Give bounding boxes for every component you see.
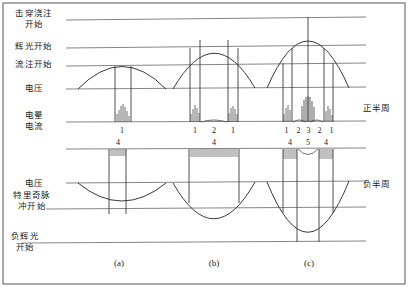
label-voltage-upper: 电压 bbox=[6, 83, 62, 93]
region-number-c-1-left: 1 bbox=[282, 126, 291, 135]
label-trichel-pulse-onset-line1: 特里奇脉 bbox=[2, 190, 62, 201]
region-number-c-3: 3 bbox=[304, 126, 313, 135]
label-voltage-upper-line1: 电压 bbox=[6, 83, 62, 93]
region-number-c-1-right: 1 bbox=[327, 126, 336, 135]
region-number-b-2: 2 bbox=[209, 126, 219, 135]
caption-b: (b) bbox=[203, 258, 225, 268]
label-voltage-lower: 电压 bbox=[6, 178, 62, 188]
region-number-c-4-left: 4 bbox=[285, 138, 295, 147]
label-glow-onset: 辉光开始 bbox=[6, 41, 62, 51]
label-voltage-lower-line1: 电压 bbox=[6, 178, 62, 188]
figure-root: 击穿浇注 开始 辉光开始 流注开始 电压 电晕 电流 电压 特里奇脉 冲开始 负… bbox=[0, 0, 408, 287]
pulse-burst-c-4-left bbox=[284, 149, 296, 159]
label-negative-glow-onset: 负辉光 开始 bbox=[2, 231, 48, 253]
label-breakdown-streamer-onset-line2: 开始 bbox=[6, 19, 62, 30]
label-negative-half-cycle: 负半周 bbox=[363, 177, 390, 189]
caption-c: (c) bbox=[298, 258, 320, 268]
label-corona-current-line2: 电流 bbox=[6, 121, 62, 132]
label-trichel-pulse-onset-line2: 冲开始 bbox=[2, 201, 62, 212]
region-number-b-1-left: 1 bbox=[190, 126, 200, 135]
region-number-c-5: 5 bbox=[303, 138, 313, 147]
label-streamer-onset: 流注开始 bbox=[6, 59, 62, 69]
region-number-a-4: 4 bbox=[113, 138, 123, 147]
label-negative-glow-onset-line1: 负辉光 bbox=[2, 231, 48, 242]
label-corona-current: 电晕 电流 bbox=[6, 110, 62, 132]
label-streamer-onset-line1: 流注开始 bbox=[6, 59, 62, 69]
label-breakdown-streamer-onset-line1: 击穿浇注 bbox=[6, 8, 62, 19]
caption-a: (a) bbox=[108, 258, 130, 268]
label-negative-glow-onset-line2: 开始 bbox=[2, 242, 48, 253]
pulse-burst-c-4-right bbox=[320, 149, 332, 159]
label-corona-current-line1: 电晕 bbox=[6, 110, 62, 121]
label-breakdown-streamer-onset: 击穿浇注 开始 bbox=[6, 8, 62, 30]
label-trichel-pulse-onset: 特里奇脉 冲开始 bbox=[2, 190, 62, 212]
region-number-c-2-left: 2 bbox=[294, 126, 303, 135]
region-number-c-2-right: 2 bbox=[315, 126, 324, 135]
region-number-b-4: 4 bbox=[209, 138, 219, 147]
label-positive-half-cycle: 正半周 bbox=[363, 101, 390, 113]
label-glow-onset-line1: 辉光开始 bbox=[6, 41, 62, 51]
region-number-b-1-right: 1 bbox=[228, 126, 238, 135]
region-number-a-1: 1 bbox=[117, 126, 127, 135]
region-number-c-4-right: 4 bbox=[321, 138, 331, 147]
